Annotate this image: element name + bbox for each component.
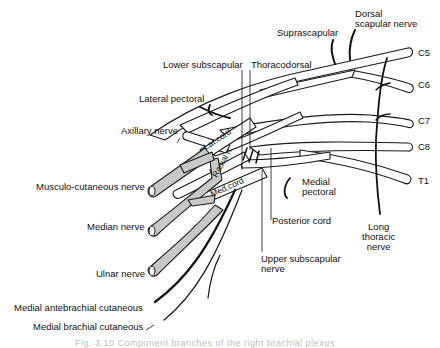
brachial-plexus-diagram: Lat.cord Radial n. Med.cord C5 C6 C7 C8 …	[0, 0, 440, 348]
suprascapular-label: Suprascapular	[277, 28, 338, 38]
upper-subscapular-label: Upper subscapular nerve	[261, 254, 341, 274]
median-nerve-label: Median nerve	[87, 222, 145, 232]
lateral-pectoral-label: Lateral pectoral	[139, 94, 204, 104]
suprascapular-line	[332, 40, 335, 64]
figure-caption: Fig. 3.10 Component branches of the righ…	[75, 338, 335, 348]
thoracodorsal-label: Thoracodorsal	[251, 60, 312, 70]
division-lower	[240, 152, 330, 168]
dorsal-scapular-label: Dorsal scapular nerve	[355, 9, 417, 29]
dorsal-scapular-line	[350, 30, 355, 60]
medial-antebrachial-line	[155, 190, 235, 302]
root-c8-label: C8	[418, 142, 430, 152]
medial-brachial-label: Medial brachial cutaneous	[33, 322, 143, 332]
lower-subscapular-label: Lower subscapular	[163, 60, 243, 70]
posterior-cord-label: Posterior cord	[272, 216, 331, 226]
root-c7-label: C7	[418, 116, 430, 126]
musculocutaneous-nerve-label: Musculo-cutaneous nerve	[36, 182, 145, 192]
root-c5-label: C5	[418, 48, 430, 58]
root-c6-label: C6	[418, 80, 430, 90]
plexus-drawing: Lat.cord Radial n. Med.cord	[0, 0, 440, 348]
ulnar-nerve-label: Ulnar nerve	[96, 269, 145, 279]
root-c8-tube	[250, 142, 413, 155]
long-thoracic-label: Long thoracic nerve	[362, 222, 395, 252]
medial-pectoral-label: Medial pectoral	[302, 177, 336, 197]
root-t1-label: T1	[418, 176, 429, 186]
medial-pectoral-line	[285, 178, 290, 198]
axillary-nerve-label: Axillary nerve	[121, 126, 178, 136]
medial-antebrachial-label: Medial antebrachial cutaneous	[14, 303, 143, 313]
ulnar-nerve	[148, 205, 223, 276]
